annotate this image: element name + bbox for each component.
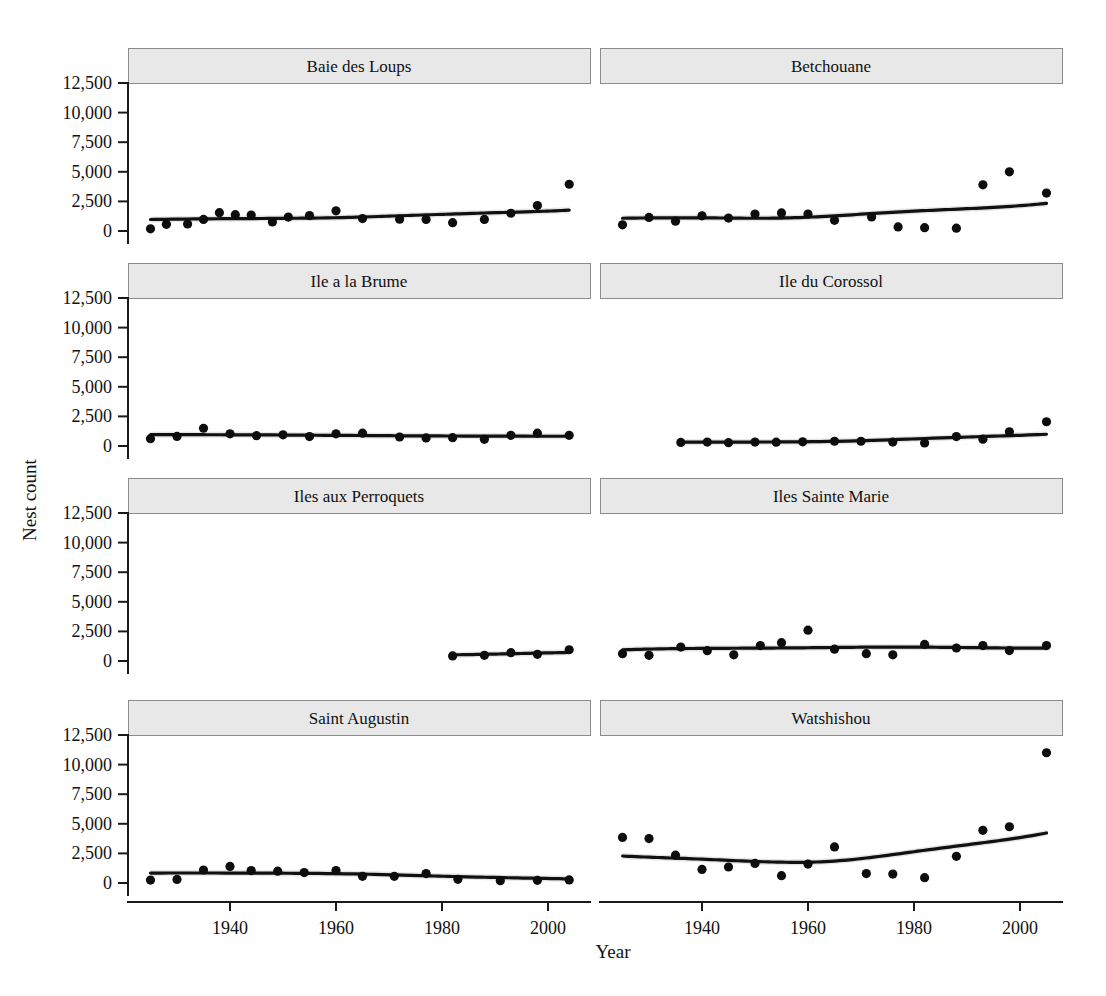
data-point [422, 869, 431, 878]
data-point [772, 438, 781, 447]
data-point [268, 217, 277, 226]
y-tick-label: 2,500 [72, 843, 113, 863]
data-point [1005, 646, 1014, 655]
data-point [978, 180, 987, 189]
data-point [565, 875, 574, 884]
data-point [331, 429, 340, 438]
y-tick-label: 0 [103, 873, 112, 893]
data-point [618, 220, 627, 229]
facet-strip-label: Saint Augustin [309, 709, 410, 728]
y-tick-label: 7,500 [72, 784, 113, 804]
x-tick-label: 1940 [212, 918, 248, 938]
data-point [231, 210, 240, 219]
facet-strip-label: Baie des Loups [307, 57, 412, 76]
y-tick-label: 10,000 [63, 103, 113, 123]
data-point [358, 214, 367, 223]
data-point [671, 217, 680, 226]
y-tick-label: 0 [103, 436, 112, 456]
data-point [750, 209, 759, 218]
y-tick-label: 0 [103, 221, 112, 241]
data-point [724, 213, 733, 222]
data-point [862, 869, 871, 878]
y-tick-label: 0 [103, 651, 112, 671]
data-point [703, 646, 712, 655]
data-point [533, 429, 542, 438]
y-tick-label: 12,500 [63, 73, 113, 93]
data-point [644, 651, 653, 660]
data-point [676, 438, 685, 447]
chart-svg: Baie des LoupsBetchouaneIle a la BrumeIl… [0, 0, 1106, 996]
data-point [1042, 641, 1051, 650]
x-axis-title: Year [595, 941, 631, 962]
y-tick-label: 5,000 [72, 162, 113, 182]
y-tick-label: 10,000 [63, 318, 113, 338]
data-point [305, 211, 314, 220]
data-point [284, 212, 293, 221]
data-point [448, 433, 457, 442]
facet-strip-label: Iles Sainte Marie [773, 487, 889, 506]
data-point [697, 865, 706, 874]
y-tick-label: 12,500 [63, 503, 113, 523]
data-point [888, 437, 897, 446]
data-point [199, 215, 208, 224]
data-point [729, 650, 738, 659]
data-point [756, 641, 765, 650]
data-point [506, 431, 515, 440]
data-point [777, 638, 786, 647]
facet-strip-label: Iles aux Perroquets [294, 487, 424, 506]
data-point [225, 862, 234, 871]
facet-strip-label: Watshishou [792, 709, 871, 728]
data-point [1005, 822, 1014, 831]
data-point [703, 437, 712, 446]
y-tick-label: 7,500 [72, 562, 113, 582]
data-point [830, 645, 839, 654]
data-point [920, 873, 929, 882]
data-point [978, 641, 987, 650]
data-point [395, 215, 404, 224]
x-tick-label: 1940 [684, 918, 720, 938]
data-point [777, 208, 786, 217]
x-tick-label: 2000 [530, 918, 566, 938]
y-tick-label: 7,500 [72, 347, 113, 367]
data-point [856, 437, 865, 446]
data-point [215, 208, 224, 217]
data-point [894, 222, 903, 231]
data-point [920, 223, 929, 232]
y-axis-title: Nest count [19, 458, 40, 541]
data-point [305, 432, 314, 441]
data-point [777, 871, 786, 880]
data-point [830, 437, 839, 446]
data-point [867, 212, 876, 221]
facet-strip-label: Ile du Corossol [779, 272, 883, 291]
data-point [952, 224, 961, 233]
data-point [830, 216, 839, 225]
data-point [724, 438, 733, 447]
data-point [618, 649, 627, 658]
y-tick-label: 5,000 [72, 377, 113, 397]
data-point [803, 859, 812, 868]
data-point [533, 201, 542, 210]
data-point [920, 438, 929, 447]
data-point [480, 435, 489, 444]
data-point [565, 645, 574, 654]
data-point [565, 180, 574, 189]
data-point [750, 859, 759, 868]
data-point [565, 431, 574, 440]
y-tick-label: 2,500 [72, 621, 113, 641]
y-tick-label: 12,500 [63, 725, 113, 745]
y-tick-label: 12,500 [63, 288, 113, 308]
data-point [533, 650, 542, 659]
data-point [422, 215, 431, 224]
data-point [803, 209, 812, 218]
data-point [1005, 427, 1014, 436]
x-tick-label: 1980 [424, 918, 460, 938]
data-point [358, 872, 367, 881]
data-point [697, 211, 706, 220]
data-point [888, 870, 897, 879]
data-point [533, 876, 542, 885]
y-tick-label: 10,000 [63, 533, 113, 553]
data-point [331, 866, 340, 875]
data-point [480, 215, 489, 224]
data-point [506, 648, 515, 657]
data-point [390, 872, 399, 881]
